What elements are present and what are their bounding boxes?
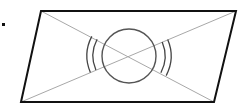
left-angle-arc-outer [87, 36, 92, 72]
bullet-dot [2, 23, 5, 26]
left-angle-arc-inner [93, 39, 97, 70]
right-angle-arc-outer [166, 40, 171, 76]
diagram-canvas [0, 0, 250, 112]
diagonal-bl-tr [21, 11, 236, 102]
right-angle-arc-inner [161, 42, 165, 73]
geometry-figure [0, 0, 250, 112]
